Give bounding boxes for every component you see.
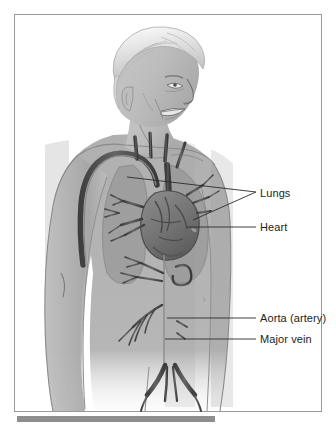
label-aorta: Aorta (artery) <box>260 312 326 324</box>
anatomy-illustration <box>15 15 323 413</box>
body-figure <box>45 27 233 413</box>
label-lungs: Lungs <box>260 187 290 199</box>
figure-frame: Lungs Heart Aorta (artery) Major vein <box>14 14 322 412</box>
label-heart: Heart <box>260 221 287 233</box>
head <box>113 27 204 127</box>
figure-root: Lungs Heart Aorta (artery) Major vein <box>0 0 336 433</box>
label-major-vein: Major vein <box>260 333 312 345</box>
footer-accent-bar <box>17 416 215 422</box>
heart <box>141 191 200 260</box>
pupil <box>173 83 177 87</box>
